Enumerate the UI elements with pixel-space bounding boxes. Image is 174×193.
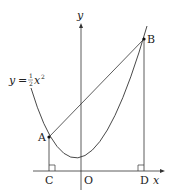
svg-text:2: 2 [41,73,45,80]
point-a-dot [47,135,50,138]
y-axis-label: y [76,9,84,22]
point-b-dot [142,37,145,40]
y-axis [79,23,83,190]
svg-text:1: 1 [29,72,33,79]
parabola-figure: y x O A B C D y = 1 2 x 2 [0,0,174,193]
point-a-label: A [37,131,47,144]
svg-text:x: x [34,74,41,87]
segment-ab [49,39,144,137]
curve-equation-label: y = 1 2 x 2 [8,72,45,87]
point-d-label: D [140,174,149,187]
svg-text:y: y [8,74,16,87]
right-angle-c-icon [49,165,55,171]
x-axis-arrow-icon [160,169,165,173]
point-b-label: B [147,33,155,46]
right-angle-d-icon [138,165,144,171]
x-axis [33,169,165,173]
y-axis-arrow-icon [79,23,83,28]
point-c-label: C [45,174,53,187]
svg-text:=: = [18,74,27,87]
x-axis-label: x [153,174,160,187]
origin-label: O [84,174,93,187]
svg-text:2: 2 [29,80,33,87]
